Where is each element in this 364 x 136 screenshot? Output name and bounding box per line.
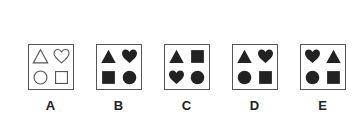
triangle-icon [30,46,51,67]
circle-icon [302,67,323,88]
option-label: A [28,98,73,113]
option-label: B [96,98,141,113]
circle-icon [119,67,140,88]
square-icon [255,67,276,88]
option-figure-box [232,44,278,90]
option-figure-box [28,44,74,90]
square-icon [187,46,208,67]
triangle-icon [98,46,119,67]
answer-option-c[interactable]: C [164,44,210,113]
option-figure-box [96,44,142,90]
triangle-icon [166,46,187,67]
circle-icon [234,67,255,88]
triangle-icon [323,46,344,67]
heart-icon [166,67,187,88]
answer-option-a[interactable]: A [28,44,74,113]
answer-option-b[interactable]: B [96,44,142,113]
answer-option-e[interactable]: E [300,44,346,113]
option-figure-box [300,44,346,90]
option-label: D [232,98,277,113]
square-icon [51,67,72,88]
heart-icon [255,46,276,67]
answer-option-d[interactable]: D [232,44,278,113]
option-figure-box [164,44,210,90]
option-label: C [164,98,209,113]
circle-icon [187,67,208,88]
heart-icon [302,46,323,67]
heart-icon [119,46,140,67]
square-icon [98,67,119,88]
circle-icon [30,67,51,88]
triangle-icon [234,46,255,67]
option-label: E [300,98,345,113]
square-icon [323,67,344,88]
heart-icon [51,46,72,67]
